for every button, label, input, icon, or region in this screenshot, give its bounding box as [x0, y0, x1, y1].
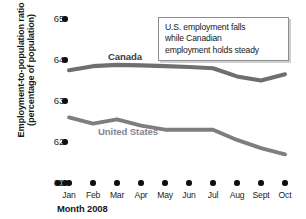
canada-line-series	[69, 65, 285, 81]
series-label-united-states: United States	[98, 126, 158, 137]
employment-population-ratio-chart: Employment-to-population ratio (percenta…	[0, 0, 306, 219]
annotation-line-1: U.S. employment falls	[165, 22, 283, 33]
annotation-line-3: employment holds steady	[165, 45, 283, 56]
annotation-callout: U.S. employment falls while Canadian emp…	[158, 17, 289, 61]
series-label-canada: Canada	[108, 51, 142, 62]
annotation-line-2: while Canadian	[165, 33, 283, 44]
